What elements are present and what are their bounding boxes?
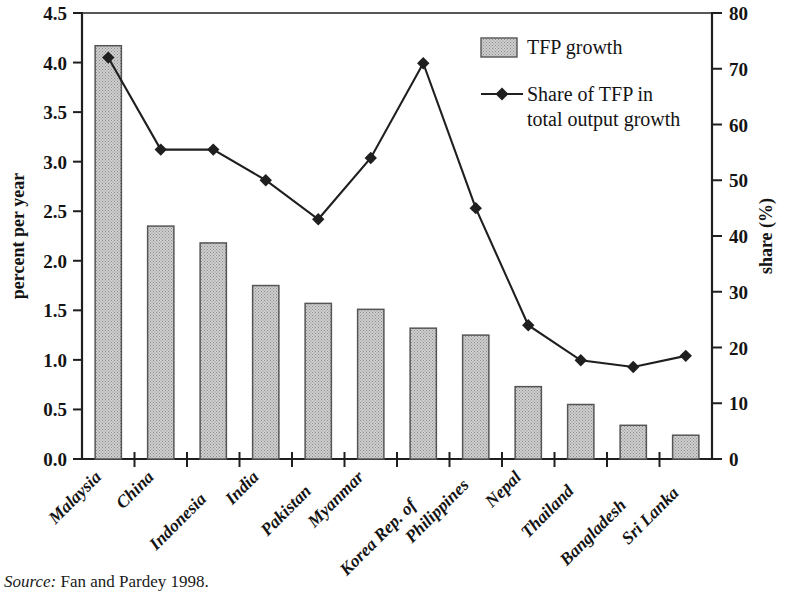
legend-label-share-line2: total output growth: [527, 108, 680, 131]
source-note: Source: Fan and Pardey 1998.: [4, 572, 209, 592]
data-point-marker: [522, 319, 534, 331]
bar: [200, 243, 226, 459]
data-point-marker: [627, 361, 639, 373]
y2-tick-label: 80: [729, 3, 748, 24]
x-axis-category-label: Sri Lanka: [617, 483, 683, 549]
bar: [620, 425, 646, 459]
source-note-label: Source:: [4, 572, 56, 591]
y2-tick-label: 20: [729, 338, 748, 359]
y2-tick-label: 30: [729, 282, 748, 303]
chart-canvas: 0.00.51.01.52.02.53.03.54.04.5 010203040…: [0, 0, 793, 605]
y-axis-left-ticks: 0.00.51.01.52.02.53.03.54.04.5: [43, 3, 83, 470]
y-tick-label: 1.0: [43, 350, 67, 371]
bar: [95, 46, 121, 459]
x-axis-category-label: Indonesia: [144, 489, 210, 555]
x-axis-category-label: Thailand: [517, 481, 578, 542]
data-point-marker: [155, 143, 167, 155]
data-point-marker: [575, 354, 587, 366]
y-axis-right-title: share (%): [756, 198, 777, 274]
data-point-marker: [207, 143, 219, 155]
y-tick-label: 2.0: [43, 251, 67, 272]
y2-tick-label: 70: [729, 59, 748, 80]
x-axis-category-label: Pakistan: [256, 481, 316, 541]
y2-tick-label: 50: [729, 170, 748, 191]
y-tick-label: 0.0: [43, 449, 67, 470]
y-tick-label: 0.5: [43, 399, 67, 420]
chart-legend: TFP growth Share of TFP in total output …: [481, 36, 680, 131]
x-axis-category-label: India: [220, 467, 263, 510]
y2-tick-label: 10: [729, 393, 748, 414]
y-tick-label: 1.5: [43, 300, 67, 321]
x-axis-category-label: Malaysia: [43, 467, 105, 529]
bar: [148, 226, 174, 459]
data-point-marker: [680, 350, 692, 362]
y2-tick-label: 0: [729, 449, 739, 470]
y-tick-label: 3.0: [43, 152, 67, 173]
legend-label-share-line1: Share of TFP in: [527, 83, 653, 105]
legend-swatch-bar: [481, 38, 517, 57]
data-point-marker: [417, 57, 429, 69]
y-tick-label: 3.5: [43, 102, 67, 123]
y-axis-right-ticks: 01020304050607080: [711, 3, 748, 470]
plot-frame: [82, 13, 712, 459]
x-axis-labels: MalaysiaChinaIndonesiaIndiaPakistanMyanm…: [43, 467, 682, 580]
bar: [253, 286, 279, 459]
y-tick-label: 4.0: [43, 53, 67, 74]
bar: [568, 404, 594, 459]
legend-diamond-icon: [496, 88, 509, 101]
bar: [515, 387, 541, 459]
data-point-marker: [470, 202, 482, 214]
y-tick-label: 2.5: [43, 201, 67, 222]
x-axis-category-label: China: [112, 467, 158, 513]
y2-tick-label: 60: [729, 115, 748, 136]
x-axis-category-label: Myanmar: [303, 467, 368, 532]
bar: [463, 335, 489, 459]
y-axis-left-title: percent per year: [8, 173, 28, 299]
legend-label-tfp-growth: TFP growth: [527, 36, 622, 59]
bar: [305, 303, 331, 459]
y-tick-label: 4.5: [43, 3, 67, 24]
figure-container: 0.00.51.01.52.02.53.03.54.04.5 010203040…: [0, 0, 793, 605]
bar: [673, 435, 699, 459]
bar: [358, 309, 384, 459]
x-axis-category-label: Nepal: [480, 467, 525, 512]
source-note-text: Fan and Pardey 1998.: [56, 572, 209, 591]
y2-tick-label: 40: [729, 226, 748, 247]
bar: [410, 328, 436, 459]
